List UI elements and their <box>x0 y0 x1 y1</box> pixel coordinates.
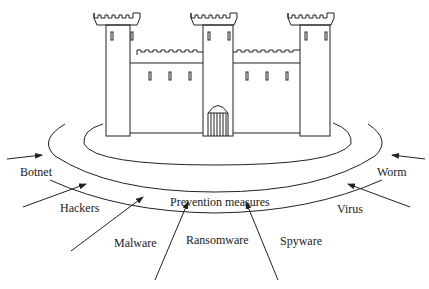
prevention-measures-label: Prevention measures <box>170 195 270 210</box>
threat-label-ransomware: Ransomware <box>186 233 249 248</box>
threat-label-malware: Malware <box>114 236 157 251</box>
prevention-band-outer <box>48 124 382 192</box>
arrow-spyware <box>246 202 278 280</box>
threat-label-hackers: Hackers <box>60 201 99 216</box>
threat-label-virus: Virus <box>337 202 363 217</box>
threat-label-worm: Worm <box>377 165 407 180</box>
threat-label-botnet: Botnet <box>20 165 52 180</box>
inner-ring <box>84 123 351 165</box>
arrow-worm <box>392 155 425 159</box>
arrow-ransomware <box>155 202 188 280</box>
arrow-botnet <box>7 155 42 159</box>
castle-icon <box>94 13 334 136</box>
threat-label-spyware: Spyware <box>280 234 322 249</box>
